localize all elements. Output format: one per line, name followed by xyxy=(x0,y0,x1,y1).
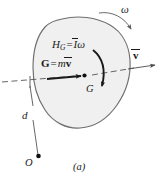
angular-momentum-symbol: H xyxy=(52,38,60,50)
linear-momentum-label: G=mv xyxy=(41,58,71,69)
mass-center-label: G xyxy=(86,84,94,95)
inertia-symbol: I xyxy=(74,39,78,50)
figure-caption: (a) xyxy=(73,162,85,173)
linear-momentum-symbol: G xyxy=(41,57,50,69)
angular-momentum-label: HG=Iω xyxy=(52,39,85,52)
dimension-line-lower xyxy=(33,120,38,155)
velocity-symbol-inline: v xyxy=(66,58,72,69)
distance-label: d xyxy=(22,110,28,121)
reference-point-o xyxy=(36,154,41,159)
dimension-line-upper xyxy=(30,86,33,106)
linear-momentum-equals: = xyxy=(50,57,58,69)
reference-point-label: O xyxy=(25,158,33,169)
figure-canvas xyxy=(0,0,163,181)
angular-momentum-equals: = xyxy=(65,38,73,50)
mass-symbol: m xyxy=(58,57,66,69)
velocity-symbol: v xyxy=(133,50,139,61)
momentum-diagram-figure: HG=Iω G=mv G ω v d O (a) xyxy=(0,0,163,181)
omega-symbol-inline: ω xyxy=(77,38,85,50)
mass-center-point xyxy=(82,73,86,77)
velocity-label: v xyxy=(133,50,139,61)
rigid-body-shape xyxy=(33,17,130,128)
omega-label: ω xyxy=(121,4,129,15)
velocity-arrow xyxy=(128,65,155,69)
